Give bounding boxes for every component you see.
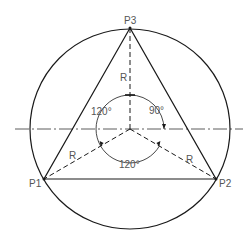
vertex-p2-dot [215,178,218,181]
diagram-canvas: P3 P1 P2 R R R 120° 90° 120° [0,0,250,240]
label-p3: P3 [124,15,137,26]
label-radius-left: R [69,150,76,161]
label-angle-right: 90° [149,105,164,116]
label-radius-top: R [120,72,127,83]
radius-line-left [44,129,130,179]
vertex-p3-dot [129,27,132,30]
label-angle-left: 120° [91,106,112,117]
arc-arrow-right [162,124,166,129]
diagram-svg: P3 P1 P2 R R R 120° 90° 120° [0,0,250,240]
label-p2: P2 [219,178,232,189]
label-p1: P1 [29,178,42,189]
label-angle-bottom: 120° [119,159,140,170]
vertex-p1-dot [43,178,46,181]
radius-line-right [130,129,216,179]
label-radius-right: R [186,154,193,165]
